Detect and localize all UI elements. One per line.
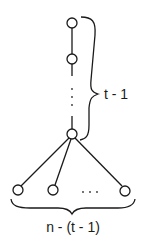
node-leaf-2 (48, 185, 58, 195)
leaf-count-label: n - (t - 1) (46, 219, 100, 235)
node-path-top (67, 18, 77, 28)
path-ellipsis-dot (71, 104, 73, 106)
path-ellipsis-dot (71, 96, 73, 98)
edge-hub-l1 (21, 138, 69, 186)
path-ellipsis-dot (71, 88, 73, 90)
graph-diagram: t - 1 n - (t - 1) (0, 0, 145, 243)
node-leaf-1 (13, 185, 23, 195)
leaf-ellipsis-dot (82, 191, 84, 193)
leaf-ellipsis-dot (96, 191, 98, 193)
edge-hub-l2 (55, 139, 71, 185)
leaf-brace (11, 199, 135, 214)
node-hub (67, 129, 77, 139)
node-path-second (67, 54, 77, 64)
path-brace (80, 17, 98, 140)
edge-hub-l3 (75, 138, 122, 186)
node-leaf-last (120, 186, 130, 196)
leaf-ellipsis-dot (89, 191, 91, 193)
path-count-label: t - 1 (104, 86, 128, 102)
